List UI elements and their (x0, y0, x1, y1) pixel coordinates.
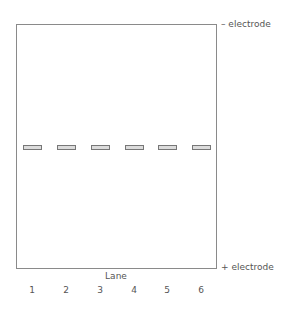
negative-electrode-label: – electrode (221, 19, 271, 29)
lane-label-5: 5 (157, 285, 177, 295)
gel-box (16, 24, 217, 269)
lane-label-4: 4 (124, 285, 144, 295)
band-lane-1 (23, 145, 42, 150)
lane-axis-label: Lane (0, 271, 232, 281)
lane-label-6: 6 (191, 285, 211, 295)
band-lane-3 (91, 145, 110, 150)
lane-label-2: 2 (56, 285, 76, 295)
band-lane-5 (158, 145, 177, 150)
band-lane-4 (125, 145, 144, 150)
band-lane-6 (192, 145, 211, 150)
lane-label-1: 1 (22, 285, 42, 295)
band-lane-2 (57, 145, 76, 150)
lane-label-3: 3 (90, 285, 110, 295)
